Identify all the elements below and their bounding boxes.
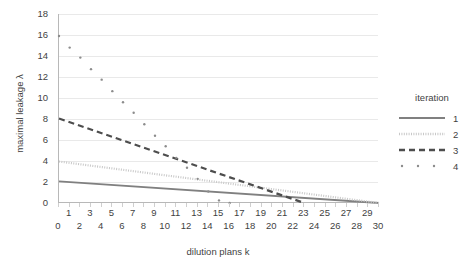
data-point	[100, 78, 102, 80]
x-tick-label: 24	[309, 220, 320, 231]
x-tick-label: 25	[319, 207, 330, 218]
data-point	[154, 135, 156, 137]
data-point	[186, 167, 188, 169]
x-tick-label: 14	[202, 220, 213, 231]
data-point	[218, 199, 220, 201]
series-layer	[59, 14, 379, 203]
plot-area	[58, 14, 378, 203]
legend-title: iteration	[398, 92, 470, 103]
data-point	[90, 68, 92, 70]
x-tick-label: 3	[87, 207, 92, 218]
legend-swatch-solid-icon	[398, 113, 446, 123]
x-tick-label: 29	[362, 207, 373, 218]
x-tick-label: 0	[55, 220, 60, 231]
x-tick-label: 21	[277, 207, 288, 218]
y-tick-label: 14	[37, 51, 48, 61]
x-tick-label: 16	[223, 220, 234, 231]
x-tick-label: 18	[245, 220, 256, 231]
data-point	[207, 190, 209, 192]
legend-label: 3	[453, 145, 458, 156]
x-tick-label: 4	[98, 220, 103, 231]
x-tick-mark	[378, 203, 379, 207]
x-tick-label: 27	[341, 207, 352, 218]
legend-item-2[interactable]: 2	[398, 126, 470, 142]
y-tick-label: 6	[43, 135, 48, 145]
legend-label: 1	[453, 113, 458, 124]
data-point	[143, 123, 145, 125]
x-tick-label: 19	[255, 207, 266, 218]
legend-swatch-scatter-icon	[398, 161, 446, 171]
legend-item-3[interactable]: 3	[398, 142, 470, 158]
x-tick-label: 11	[170, 207, 180, 218]
series-line-2	[59, 162, 379, 203]
x-tick-label: 2	[77, 220, 82, 231]
legend-label: 2	[453, 129, 458, 140]
y-tick-label: 2	[43, 177, 48, 187]
data-point	[175, 157, 177, 159]
x-tick-label: 9	[151, 207, 156, 218]
x-tick-label: 26	[330, 220, 341, 231]
legend-label: 4	[453, 161, 458, 172]
y-tick-label: 16	[37, 30, 48, 40]
y-tick-label: 18	[37, 9, 48, 19]
data-point	[68, 46, 70, 48]
data-point	[111, 90, 113, 92]
data-point	[58, 35, 60, 37]
x-tick-label: 23	[298, 207, 309, 218]
x-tick-label: 17	[234, 207, 245, 218]
x-axis-tick-labels: 0123456789101112131415161718192021222324…	[58, 206, 378, 238]
y-tick-label: 10	[37, 93, 48, 103]
x-tick-label: 12	[181, 220, 192, 231]
x-tick-label: 30	[373, 220, 384, 231]
x-tick-label: 1	[66, 207, 71, 218]
x-tick-label: 28	[351, 220, 362, 231]
y-tick-label: 12	[37, 72, 48, 82]
y-tick-label: 8	[43, 114, 48, 124]
data-point	[164, 145, 166, 147]
y-tick-label: 0	[43, 198, 48, 208]
legend: iteration 1234	[398, 92, 470, 174]
legend-item-1[interactable]: 1	[398, 110, 470, 126]
x-tick-label: 7	[130, 207, 135, 218]
data-point	[196, 178, 198, 180]
legend-swatch-dotted-icon	[398, 129, 446, 139]
chart-container: maximal leakage λ 024681012141618 012345…	[0, 0, 475, 275]
x-axis-title: dilution plans k	[58, 246, 378, 257]
y-tick-label: 4	[43, 156, 48, 166]
x-tick-label: 15	[213, 207, 224, 218]
x-tick-label: 5	[109, 207, 114, 218]
series-scatter-4	[58, 35, 231, 204]
x-tick-label: 8	[141, 220, 146, 231]
data-point	[122, 101, 124, 103]
x-tick-label: 6	[119, 220, 124, 231]
data-point	[79, 56, 81, 58]
x-tick-label: 13	[191, 207, 202, 218]
x-tick-label: 22	[287, 220, 298, 231]
legend-rows: 1234	[398, 110, 470, 174]
legend-swatch-dashed-icon	[398, 145, 446, 155]
x-tick-label: 20	[266, 220, 277, 231]
y-axis-tick-labels: 024681012141618	[0, 14, 53, 203]
data-point	[132, 112, 134, 114]
x-tick-label: 10	[159, 220, 170, 231]
legend-item-4[interactable]: 4	[398, 158, 470, 174]
